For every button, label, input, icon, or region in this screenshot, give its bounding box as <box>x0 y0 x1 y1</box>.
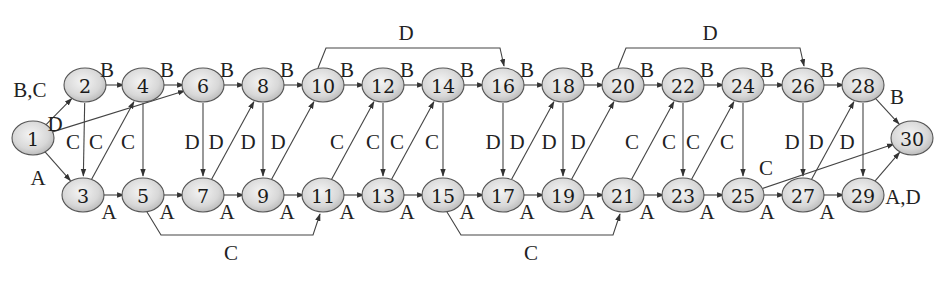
node-8: 8 <box>242 68 284 102</box>
edge-label: B <box>460 58 474 82</box>
node-label: 17 <box>491 185 515 207</box>
node-label: 6 <box>197 75 209 97</box>
network-diagram: 1234567891011121314151617181920212223242… <box>0 0 941 282</box>
node-3: 3 <box>62 178 104 212</box>
node-label: 2 <box>79 75 91 97</box>
bracket-label: D <box>702 21 717 45</box>
edge-label: A <box>339 200 355 224</box>
edge-label: B,C <box>13 78 46 102</box>
edge-label: C <box>366 130 380 154</box>
node-4: 4 <box>122 68 164 102</box>
node-14: 14 <box>422 68 464 102</box>
node-label: 19 <box>551 185 575 207</box>
edge-label: D <box>570 130 585 154</box>
edge-2-3 <box>83 103 84 176</box>
node-20: 20 <box>602 68 644 102</box>
node-24: 24 <box>722 68 764 102</box>
edge-label: B <box>640 58 654 82</box>
edge-label: B <box>100 58 114 82</box>
node-22: 22 <box>662 68 704 102</box>
edge-label: C <box>759 156 773 180</box>
node-label: 27 <box>791 185 815 207</box>
edge-label: B <box>400 58 414 82</box>
edge-label: A <box>819 200 835 224</box>
edge-label: B <box>160 58 174 82</box>
edge-label: B <box>890 85 904 109</box>
edge-label: A <box>279 200 295 224</box>
node-23: 23 <box>662 178 704 212</box>
node-label: 28 <box>851 75 875 97</box>
edge-label: D <box>47 112 62 136</box>
node-label: 8 <box>257 75 269 97</box>
node-30: 30 <box>891 121 933 155</box>
edge-label: D <box>808 130 823 154</box>
node-label: 29 <box>851 185 875 207</box>
edge-label: D <box>485 130 500 154</box>
edge-label: A <box>579 200 595 224</box>
edge-label: B <box>760 58 774 82</box>
edge-label: A <box>30 166 46 190</box>
edge-label: D <box>784 130 799 154</box>
edge-label: D <box>208 130 223 154</box>
edge-label: A,D <box>885 185 921 209</box>
node-label: 3 <box>77 185 89 207</box>
node-label: 12 <box>371 75 395 97</box>
node-label: 30 <box>900 128 924 150</box>
node-5: 5 <box>122 178 164 212</box>
node-19: 19 <box>542 178 584 212</box>
node-7: 7 <box>182 178 224 212</box>
node-label: 7 <box>197 185 209 207</box>
edge-label: C <box>66 130 80 154</box>
node-9: 9 <box>242 178 284 212</box>
bracket-label: C <box>224 241 238 265</box>
node-label: 16 <box>491 75 515 97</box>
edge-label: C <box>625 130 639 154</box>
node-label: 25 <box>731 185 755 207</box>
node-18: 18 <box>542 68 584 102</box>
diagram-canvas: 1234567891011121314151617181920212223242… <box>0 0 941 282</box>
node-label: 14 <box>431 75 455 97</box>
edge-label: D <box>240 130 255 154</box>
edge-label: D <box>839 130 854 154</box>
node-11: 11 <box>302 178 344 212</box>
node-label: 11 <box>311 185 335 207</box>
node-label: 10 <box>311 75 335 97</box>
labels-layer: B,CDABBBBBBBBBBBBBBCCCDDDDCCCCDDDDCCCCDD… <box>13 21 920 265</box>
edge-label: A <box>101 200 117 224</box>
edge-label: B <box>520 58 534 82</box>
edge-label: D <box>509 130 524 154</box>
node-17: 17 <box>482 178 524 212</box>
node-12: 12 <box>362 68 404 102</box>
edge-label: A <box>699 200 715 224</box>
edge-label: A <box>459 200 475 224</box>
node-label: 9 <box>257 185 269 207</box>
edge-label: B <box>820 58 834 82</box>
node-label: 4 <box>137 75 149 97</box>
edge-label: C <box>89 130 103 154</box>
edge-label: D <box>270 130 285 154</box>
edge-label: B <box>340 58 354 82</box>
node-label: 23 <box>671 185 695 207</box>
edge-1-3 <box>45 152 71 181</box>
edge-label: A <box>399 200 415 224</box>
edge-label: C <box>662 130 676 154</box>
edge-label: C <box>121 130 135 154</box>
node-label: 24 <box>731 75 755 97</box>
edge-label: A <box>159 200 175 224</box>
node-16: 16 <box>482 68 524 102</box>
edge-label: C <box>720 130 734 154</box>
edge-label: C <box>686 130 700 154</box>
node-25: 25 <box>722 178 764 212</box>
edge-label: D <box>541 130 556 154</box>
node-6: 6 <box>182 68 224 102</box>
edge-label: C <box>425 130 439 154</box>
edge-label: A <box>519 200 535 224</box>
bracket-label: D <box>398 21 413 45</box>
node-label: 15 <box>431 185 455 207</box>
node-27: 27 <box>782 178 824 212</box>
edge-label: B <box>280 58 294 82</box>
node-28: 28 <box>842 68 884 102</box>
node-label: 20 <box>611 75 635 97</box>
node-label: 26 <box>791 75 815 97</box>
edge-label: B <box>580 58 594 82</box>
